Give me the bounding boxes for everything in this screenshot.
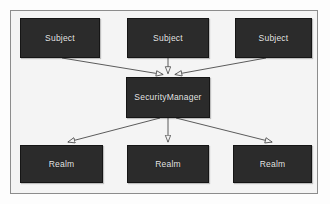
node-subject-right[interactable]: Subject [235, 18, 312, 58]
node-realm-left[interactable]: Realm [20, 145, 103, 183]
edge-subject-right-to-sm [175, 58, 266, 75]
node-label: Realm [49, 160, 75, 169]
node-label: Realm [155, 160, 181, 169]
edge-sm-to-realm-left [68, 118, 160, 142]
node-subject-center[interactable]: Subject [127, 18, 209, 58]
node-label: Subject [259, 34, 289, 43]
edge-subject-left-to-sm [62, 58, 163, 75]
node-label: Realm [260, 160, 286, 169]
node-subject-left[interactable]: Subject [20, 18, 100, 58]
node-label: Subject [153, 34, 183, 43]
node-realm-center[interactable]: Realm [127, 145, 209, 183]
node-security-manager[interactable]: SecurityManager [126, 77, 210, 118]
edge-sm-to-realm-right [176, 118, 272, 142]
node-realm-right[interactable]: Realm [233, 145, 312, 183]
diagram-canvas: Subject Subject Subject SecurityManager … [0, 0, 330, 204]
node-label: SecurityManager [134, 93, 201, 102]
node-label: Subject [45, 34, 75, 43]
